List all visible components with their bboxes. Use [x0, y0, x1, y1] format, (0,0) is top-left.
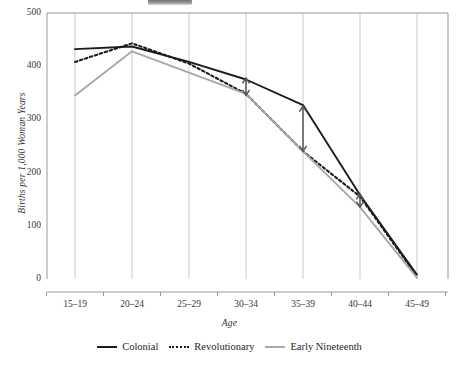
- chart-legend: ColonialRevolutionaryEarly Nineteenth: [0, 341, 459, 352]
- y-tick-0: 0: [3, 273, 41, 283]
- x-tick-30–34: 30–34: [216, 299, 276, 309]
- legend-swatch-icon: [265, 346, 285, 348]
- x-tick-40–44: 40–44: [330, 299, 390, 309]
- x-tick-15–19: 15–19: [45, 299, 105, 309]
- fertility-by-age-chart: 0100200300400500 15–1920–2425–2930–3435–…: [0, 0, 459, 365]
- gap-arrow-30-34: [243, 78, 249, 96]
- legend-label: Colonial: [122, 341, 158, 352]
- gap-arrow-35-39: [300, 106, 306, 151]
- y-tick-500: 500: [3, 7, 41, 17]
- x-axis-label: Age: [0, 318, 459, 328]
- plot-area: [0, 0, 459, 365]
- gridlines: [75, 13, 417, 279]
- x-tick-25–29: 25–29: [159, 299, 219, 309]
- plot-frame: [47, 13, 449, 296]
- legend-item-revolutionary[interactable]: Revolutionary: [169, 341, 254, 352]
- legend-item-colonial[interactable]: Colonial: [97, 341, 158, 352]
- legend-label: Early Nineteenth: [290, 341, 361, 352]
- legend-swatch-icon: [169, 346, 189, 348]
- y-axis-label: Births per 1,000 Woman Years: [17, 78, 27, 228]
- x-tick-20–24: 20–24: [102, 299, 162, 309]
- y-tick-400: 400: [3, 60, 41, 70]
- x-tick-45–49: 45–49: [387, 299, 447, 309]
- x-tick-35–39: 35–39: [273, 299, 333, 309]
- legend-label: Revolutionary: [194, 341, 254, 352]
- legend-swatch-icon: [97, 346, 117, 348]
- legend-item-early-nineteenth[interactable]: Early Nineteenth: [265, 341, 361, 352]
